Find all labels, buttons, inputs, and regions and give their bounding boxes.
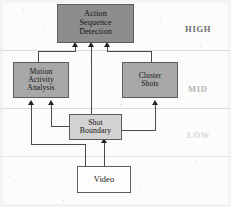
edge-shot-to-cluster-riser <box>155 105 156 131</box>
edge-shot-to-motion-riser <box>51 105 52 127</box>
arrowhead-shot-to-cluster <box>152 100 158 105</box>
tier-label-high: HIGH <box>185 24 211 34</box>
node-label-line: Detection <box>79 28 112 37</box>
node-video[interactable]: Video <box>77 166 131 193</box>
edge-motion-to-action-drop <box>75 47 76 52</box>
node-label-line: Shots <box>141 80 158 88</box>
edge-motion-to-action-run <box>38 51 75 52</box>
node-shot-boundary[interactable]: Shot Boundary <box>69 114 122 140</box>
arrowhead-shot-to-motion <box>48 100 54 105</box>
tier-divider-mid-low <box>0 108 231 109</box>
edge-video-to-motion-stub <box>85 144 86 167</box>
tier-label-low: LOW <box>187 130 210 140</box>
edge-shot-to-action-spine <box>91 47 92 114</box>
tier-label-mid: MID <box>188 84 208 94</box>
edge-shot-to-cluster-run <box>121 130 155 131</box>
arrowhead-video-to-motion <box>28 100 34 105</box>
edge-motion-to-action-riser <box>38 51 39 62</box>
edge-cluster-to-action-riser <box>151 51 152 62</box>
edge-cluster-to-action-run <box>107 51 152 52</box>
edge-shot-to-motion-run <box>51 126 69 127</box>
node-label-line: Video <box>94 175 114 184</box>
edge-video-to-motion-run <box>31 144 86 145</box>
node-action-sequence-detection[interactable]: Action Sequence Detection <box>57 4 134 43</box>
diagram-canvas: Action Sequence Detection Motion Activit… <box>0 0 231 207</box>
node-cluster-shots[interactable]: Cluster Shots <box>122 62 178 98</box>
node-label-line: Boundary <box>80 127 112 135</box>
edge-video-to-motion-riser <box>31 105 32 145</box>
edge-cluster-to-action-drop <box>107 47 108 52</box>
edge-video-to-shot-riser <box>104 143 105 166</box>
tier-divider-low-source <box>0 156 231 157</box>
node-motion-activity-analysis[interactable]: Motion Activity Analysis <box>13 62 69 98</box>
node-label-line: Analysis <box>27 84 54 92</box>
